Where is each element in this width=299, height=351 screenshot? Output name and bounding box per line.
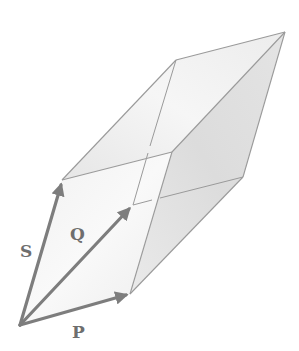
vector-s-label: S <box>20 243 32 260</box>
diagram-svg <box>0 0 299 351</box>
vector-p-label: P <box>72 324 85 341</box>
parallelepiped-diagram: S Q P <box>0 0 299 351</box>
vector-q-label: Q <box>70 226 85 243</box>
